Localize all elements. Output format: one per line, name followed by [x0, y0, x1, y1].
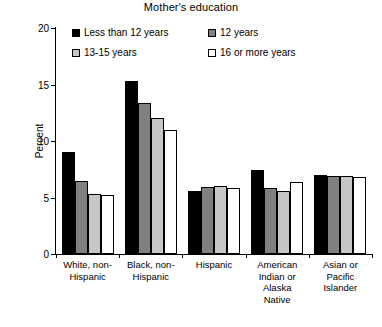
- bar-set: [246, 28, 309, 254]
- bar: [101, 195, 114, 254]
- chart-legend: Less than 12 years 12 years 13-15 years …: [72, 27, 328, 58]
- bar-set: [309, 28, 372, 254]
- bar-group: [56, 28, 119, 254]
- bar: [290, 182, 303, 254]
- bar-group: [119, 28, 182, 254]
- bar: [164, 130, 177, 254]
- category-label: White, non- Hispanic: [56, 259, 119, 282]
- y-tick-label: 20: [38, 23, 49, 34]
- legend-label: 13-15 years: [84, 47, 137, 58]
- y-tick-label: 0: [43, 249, 49, 260]
- y-tick-label: 15: [38, 79, 49, 90]
- y-tick-label: 5: [43, 192, 49, 203]
- x-tick-mark: [56, 254, 57, 258]
- bar: [340, 176, 353, 254]
- x-tick-mark: [309, 254, 310, 258]
- x-tick-mark: [246, 254, 247, 258]
- bar-set: [182, 28, 245, 254]
- category-label: American Indian or Alaska Native: [246, 259, 309, 305]
- legend-label: 12 years: [220, 27, 258, 38]
- bar: [88, 194, 101, 254]
- category-label: Asian or Pacific Islander: [309, 259, 372, 294]
- bar-chart: Mother's education Percent 05101520 Whit…: [0, 0, 382, 327]
- y-tick-label: 10: [38, 136, 49, 147]
- legend-swatch-icon: [72, 29, 80, 37]
- bar: [264, 188, 277, 254]
- chart-title: Mother's education: [0, 1, 382, 13]
- bar: [125, 81, 138, 254]
- bar: [251, 170, 264, 254]
- bar-group: [246, 28, 309, 254]
- legend-item-12-years: 12 years: [208, 27, 328, 38]
- category-label: Black, non- Hispanic: [119, 259, 182, 282]
- x-tick-mark: [372, 254, 373, 258]
- bar: [314, 175, 327, 254]
- legend-swatch-icon: [208, 29, 216, 37]
- bar: [151, 118, 164, 254]
- bar: [62, 152, 75, 254]
- bar: [353, 177, 366, 254]
- legend-item-16-or-more-years: 16 or more years: [208, 47, 328, 58]
- legend-swatch-icon: [72, 49, 80, 57]
- legend-label: Less than 12 years: [84, 27, 169, 38]
- bar: [201, 187, 214, 254]
- bar-set: [56, 28, 119, 254]
- bar: [327, 176, 340, 254]
- bar: [138, 103, 151, 254]
- bar-set: [119, 28, 182, 254]
- bar-group: [182, 28, 245, 254]
- bar: [277, 191, 290, 254]
- legend-label: 16 or more years: [220, 47, 296, 58]
- x-tick-mark: [119, 254, 120, 258]
- bar: [227, 188, 240, 254]
- x-axis-line: [55, 254, 372, 255]
- bar-group: [309, 28, 372, 254]
- legend-item-less-than-12-years: Less than 12 years: [72, 27, 208, 38]
- bar: [75, 181, 88, 254]
- legend-item-13-15-years: 13-15 years: [72, 47, 208, 58]
- bar: [214, 186, 227, 254]
- category-label: Hispanic: [182, 259, 245, 271]
- bar: [188, 191, 201, 254]
- plot-area: Percent 05101520: [56, 28, 372, 254]
- legend-swatch-icon: [208, 49, 216, 57]
- x-tick-mark: [182, 254, 183, 258]
